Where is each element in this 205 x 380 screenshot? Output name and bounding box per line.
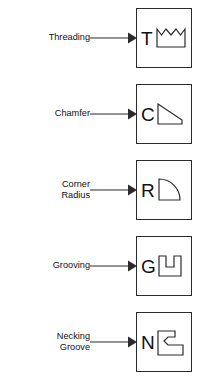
legend-row-corner-radius: Corner Radius R bbox=[0, 152, 205, 228]
symbol-letter-necking-groove: N bbox=[141, 333, 155, 352]
corner-radius-arc-icon bbox=[155, 177, 187, 203]
icon-box-chamfer[interactable]: C bbox=[136, 84, 192, 144]
row-label-corner-radius: Corner Radius bbox=[4, 152, 90, 228]
necking-groove-step-icon bbox=[155, 329, 187, 355]
leader-arrow-chamfer bbox=[90, 76, 138, 152]
leader-arrow-grooving bbox=[90, 228, 138, 304]
legend-row-chamfer: Chamfer C bbox=[0, 76, 205, 152]
label-line: Necking bbox=[57, 331, 90, 343]
leader-arrow-threading bbox=[90, 0, 138, 76]
icon-box-threading[interactable]: T bbox=[136, 8, 192, 68]
threading-zigzag-icon bbox=[155, 25, 187, 51]
symbol-letter-chamfer: C bbox=[141, 105, 155, 124]
label-line: Grooving bbox=[53, 260, 90, 272]
legend-row-threading: Threading T bbox=[0, 0, 205, 76]
leader-arrow-necking-groove bbox=[90, 304, 138, 380]
symbol-letter-threading: T bbox=[141, 29, 153, 48]
chamfer-bevel-icon bbox=[155, 101, 187, 127]
label-line: Chamfer bbox=[55, 108, 90, 120]
feature-symbol-legend: Threading T Chamfer bbox=[0, 0, 205, 380]
row-label-grooving: Grooving bbox=[4, 228, 90, 304]
icon-box-grooving[interactable]: G bbox=[136, 236, 192, 296]
symbol-letter-corner-radius: R bbox=[141, 181, 155, 200]
icon-box-corner-radius[interactable]: R bbox=[136, 160, 192, 220]
legend-row-necking-groove: Necking Groove N bbox=[0, 304, 205, 380]
row-label-necking-groove: Necking Groove bbox=[4, 304, 90, 380]
row-label-threading: Threading bbox=[4, 0, 90, 76]
symbol-letter-grooving: G bbox=[141, 257, 156, 276]
legend-row-grooving: Grooving G bbox=[0, 228, 205, 304]
grooving-u-slot-icon bbox=[155, 253, 187, 279]
label-line: Radius bbox=[61, 190, 90, 202]
leader-arrow-corner-radius bbox=[90, 152, 138, 228]
row-label-chamfer: Chamfer bbox=[4, 76, 90, 152]
label-line: Threading bbox=[49, 32, 90, 44]
label-line: Corner bbox=[62, 179, 90, 191]
icon-box-necking-groove[interactable]: N bbox=[136, 312, 192, 372]
label-line: Groove bbox=[60, 342, 90, 354]
